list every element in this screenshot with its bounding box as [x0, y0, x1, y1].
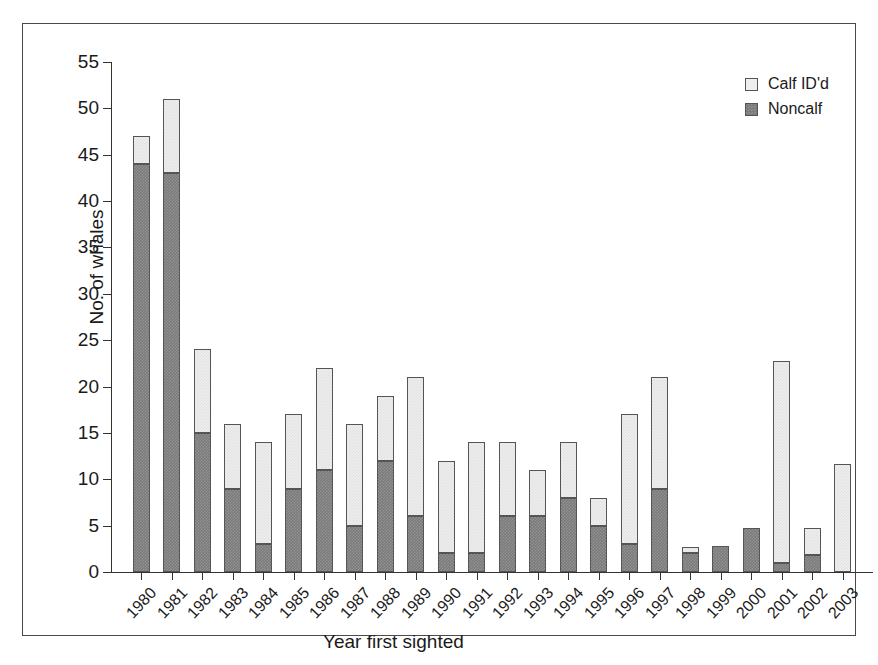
bar-1998 [682, 62, 699, 572]
y-tick-10 [103, 479, 111, 480]
bar-segment-calf-1996 [621, 414, 638, 544]
bar-1981 [163, 62, 180, 572]
legend-label-calf: Calf ID'd [768, 76, 829, 92]
bar-segment-calf-2002 [804, 528, 821, 556]
bar-segment-noncalf-1986 [316, 470, 333, 572]
y-tick-label-10: 10 [65, 469, 99, 488]
x-tick-2002 [812, 573, 813, 580]
bar-segment-noncalf-2000 [743, 528, 760, 573]
y-tick-55 [103, 62, 111, 63]
x-tick-1982 [202, 573, 203, 580]
y-tick-0 [103, 572, 111, 573]
x-tick-1993 [538, 573, 539, 580]
bar-1995 [590, 62, 607, 572]
x-tick-1991 [477, 573, 478, 580]
y-tick-label-5: 5 [65, 516, 99, 535]
bar-segment-calf-1993 [529, 470, 546, 516]
bar-segment-noncalf-1982 [194, 433, 211, 572]
legend-swatch-noncalf-icon [745, 103, 758, 116]
bar-1989 [407, 62, 424, 572]
bar-segment-noncalf-1995 [590, 526, 607, 572]
x-tick-1992 [507, 573, 508, 580]
bar-segment-noncalf-1988 [377, 461, 394, 572]
bar-1986 [316, 62, 333, 572]
y-tick-label-20: 20 [65, 377, 99, 396]
x-tick-1990 [446, 573, 447, 580]
bar-1992 [499, 62, 516, 572]
bar-1985 [285, 62, 302, 572]
bar-segment-calf-1981 [163, 99, 180, 173]
legend: Calf ID'dNoncalf [745, 76, 829, 126]
bar-2001 [773, 62, 790, 572]
legend-item-calf: Calf ID'd [745, 76, 829, 92]
bar-segment-noncalf-1989 [407, 516, 424, 572]
y-tick-15 [103, 433, 111, 434]
chart-page: 0510152025303540455055 No. of whales Yea… [0, 0, 878, 665]
y-tick-label-15: 15 [65, 423, 99, 442]
bar-segment-calf-1991 [468, 442, 485, 553]
bar-segment-noncalf-1996 [621, 544, 638, 572]
bar-segment-noncalf-1984 [255, 544, 272, 572]
bar-1984 [255, 62, 272, 572]
y-tick-label-45: 45 [65, 145, 99, 164]
bar-segment-noncalf-1997 [651, 489, 668, 572]
x-tick-1995 [599, 573, 600, 580]
plot-area [111, 62, 871, 572]
bar-segment-calf-1988 [377, 396, 394, 461]
bar-segment-noncalf-1990 [438, 553, 455, 572]
bar-2002 [804, 62, 821, 572]
bar-segment-noncalf-1999 [712, 546, 729, 572]
bar-1994 [560, 62, 577, 572]
x-tick-1980 [141, 573, 142, 580]
x-tick-1998 [690, 573, 691, 580]
x-tick-1986 [324, 573, 325, 580]
bar-segment-noncalf-1991 [468, 553, 485, 572]
y-tick-45 [103, 155, 111, 156]
bar-segment-calf-2003 [834, 464, 851, 572]
bar-segment-calf-1992 [499, 442, 516, 516]
bar-segment-calf-1995 [590, 498, 607, 526]
x-tick-1987 [355, 573, 356, 580]
x-axis-line [111, 572, 873, 573]
x-tick-2003 [843, 573, 844, 580]
bar-segment-calf-1984 [255, 442, 272, 544]
bar-segment-noncalf-1993 [529, 516, 546, 572]
bar-segment-calf-1982 [194, 349, 211, 432]
x-tick-1999 [721, 573, 722, 580]
legend-label-noncalf: Noncalf [768, 101, 822, 117]
bar-segment-calf-1998 [682, 547, 699, 553]
x-tick-1988 [385, 573, 386, 580]
bar-segment-noncalf-1994 [560, 498, 577, 572]
legend-item-noncalf: Noncalf [745, 101, 829, 117]
bar-segment-calf-2001 [773, 361, 790, 563]
figure-frame: 0510152025303540455055 No. of whales Yea… [22, 23, 856, 636]
x-tick-1989 [416, 573, 417, 580]
bar-1987 [346, 62, 363, 572]
bar-segment-calf-1985 [285, 414, 302, 488]
bar-segment-noncalf-1983 [224, 489, 241, 572]
x-tick-1984 [263, 573, 264, 580]
bar-1988 [377, 62, 394, 572]
bar-1990 [438, 62, 455, 572]
bar-2003 [834, 62, 851, 572]
bar-segment-noncalf-2001 [773, 563, 790, 572]
bar-segment-calf-1987 [346, 424, 363, 526]
bar-1996 [621, 62, 638, 572]
x-tick-1985 [294, 573, 295, 580]
x-tick-2000 [751, 573, 752, 580]
bar-segment-calf-1994 [560, 442, 577, 498]
bar-segment-calf-1990 [438, 461, 455, 554]
legend-swatch-calf-icon [745, 78, 758, 91]
y-tick-label-50: 50 [65, 98, 99, 117]
bar-segment-noncalf-1985 [285, 489, 302, 572]
bar-segment-calf-1997 [651, 377, 668, 488]
y-tick-label-55: 55 [65, 52, 99, 71]
y-tick-20 [103, 387, 111, 388]
x-tick-1983 [233, 573, 234, 580]
x-tick-1994 [568, 573, 569, 580]
y-tick-5 [103, 526, 111, 527]
x-tick-2001 [782, 573, 783, 580]
bar-1983 [224, 62, 241, 572]
bar-segment-noncalf-1981 [163, 173, 180, 572]
bar-segment-calf-1983 [224, 424, 241, 489]
